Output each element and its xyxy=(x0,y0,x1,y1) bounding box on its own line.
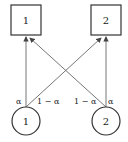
edge-label-c2-s1: 1 − α xyxy=(74,97,97,106)
edge-label-c2-s2: α xyxy=(108,97,114,106)
node-square-2: 2 xyxy=(91,5,121,35)
node-circle-2: 2 xyxy=(92,107,120,135)
square-1-label: 1 xyxy=(23,15,29,26)
node-circle-1: 1 xyxy=(12,107,40,135)
node-square-1: 1 xyxy=(11,5,41,35)
edge-label-c1-s1: α xyxy=(16,97,22,106)
square-2-label: 2 xyxy=(103,15,109,26)
circle-2-label: 2 xyxy=(103,116,109,127)
diagram-canvas: 1 2 1 2 α 1 − α 1 − α α xyxy=(0,0,128,142)
circle-1-label: 1 xyxy=(23,116,29,127)
edge-label-c1-s2: 1 − α xyxy=(37,97,60,106)
